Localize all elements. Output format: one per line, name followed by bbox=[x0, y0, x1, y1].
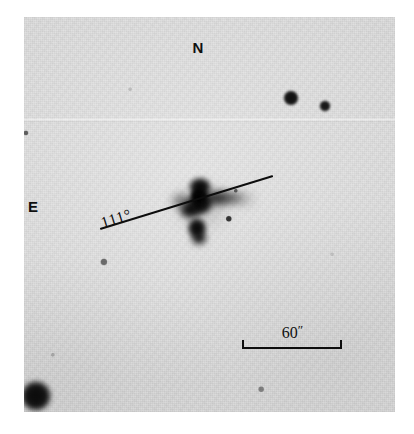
figure-page: 111° N E 60″ bbox=[0, 0, 414, 434]
scale-bar-rule bbox=[242, 347, 342, 349]
arcsecond-symbol: ″ bbox=[298, 322, 302, 337]
scale-bar-tick-right bbox=[340, 340, 342, 349]
north-label: N bbox=[193, 39, 204, 56]
scale-bar-value: 60 bbox=[282, 324, 298, 341]
scale-bar-label: 60″ bbox=[282, 322, 302, 342]
east-label: E bbox=[28, 198, 38, 215]
galaxy-component-lobe-south-tip bbox=[190, 230, 208, 246]
central-peculiar-galaxy bbox=[24, 17, 395, 412]
galaxy-component-tail-outer bbox=[233, 195, 255, 203]
photographic-plate bbox=[24, 17, 395, 412]
